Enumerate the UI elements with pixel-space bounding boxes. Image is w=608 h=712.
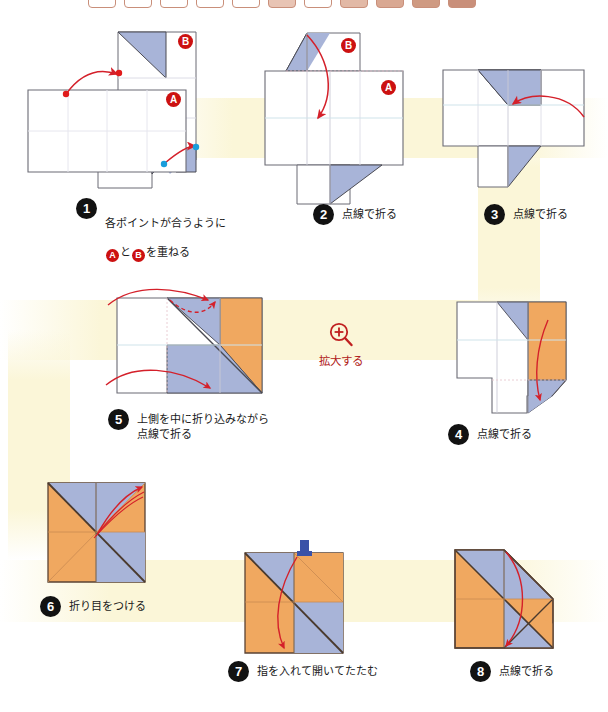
step-caption: 点線で折る <box>499 661 554 679</box>
step-caption: 点線で折る <box>513 204 568 222</box>
step-number-badge: 4 <box>448 424 469 445</box>
step-caption: 折り目をつける <box>69 596 146 614</box>
step-6: 6 折り目をつける <box>40 596 146 617</box>
step-caption: 上側を中に折り込みながら 点線で折る <box>137 409 269 441</box>
figure-step-1 <box>28 32 199 188</box>
step-1: 1 各ポイントが合うように AとBを重ねる <box>76 198 226 262</box>
origami-instruction-sheet: A B A B 拡大する 1 各ポイントが合うように AとBを重ねる 2 点線で… <box>0 0 608 712</box>
marker-a-step1: A <box>166 92 181 107</box>
marker-b-step2: B <box>341 38 356 53</box>
marker-b-inline: B <box>132 249 145 262</box>
figure-step-8 <box>455 550 553 648</box>
step-caption-mid: と <box>120 246 131 258</box>
marker-a-inline: A <box>106 249 119 262</box>
zoom-link-label: 拡大する <box>296 352 386 368</box>
figure-step-6 <box>48 483 145 582</box>
figure-step-7 <box>245 540 343 653</box>
step-2: 2 点線で折る <box>313 204 397 225</box>
step-3: 3 点線で折る <box>484 204 568 225</box>
step-4: 4 点線で折る <box>448 424 532 445</box>
step-number-badge: 8 <box>470 661 491 682</box>
step-caption: 指を入れて開いてたたむ <box>257 661 378 679</box>
step-8: 8 点線で折る <box>470 661 554 682</box>
figure-step-5 <box>106 289 262 393</box>
figure-step-3 <box>443 70 584 187</box>
step-number-badge: 1 <box>76 198 97 219</box>
step-caption-line1: 各ポイントが合うように <box>105 217 226 229</box>
zoom-link[interactable]: 拡大する <box>296 320 386 368</box>
step-number-badge: 6 <box>40 596 61 617</box>
figure-step-4 <box>457 302 566 413</box>
magnifier-plus-icon <box>296 320 386 350</box>
step-caption: 点線で折る <box>477 424 532 442</box>
figure-step-2 <box>265 33 403 204</box>
step-caption: 各ポイントが合うように AとBを重ねる <box>105 198 226 262</box>
marker-b-step1: B <box>178 34 193 49</box>
step-5: 5 上側を中に折り込みながら 点線で折る <box>108 409 269 441</box>
step-caption: 点線で折る <box>342 204 397 222</box>
marker-a-step2: A <box>381 80 396 95</box>
step-number-badge: 5 <box>108 409 129 430</box>
step-7: 7 指を入れて開いてたたむ <box>228 661 378 682</box>
step-caption-post: を重ねる <box>146 246 190 258</box>
step-number-badge: 3 <box>484 204 505 225</box>
step-number-badge: 2 <box>313 204 334 225</box>
step-number-badge: 7 <box>228 661 249 682</box>
